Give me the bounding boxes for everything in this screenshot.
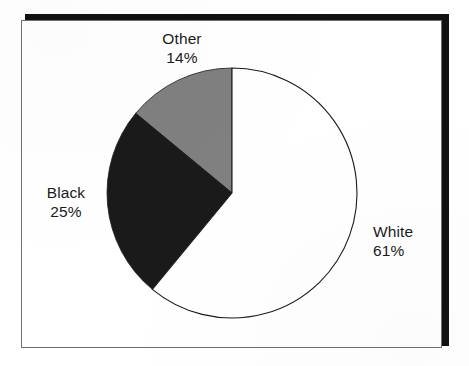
pie-label-black-percent: 25% [31,202,101,221]
pie-label-white-percent: 61% [373,241,453,260]
frame-shadow-right [442,14,449,346]
pie-label-other: Other 14% [147,29,217,67]
pie-chart-figure: Other 14% Black 25% White 61% [0,0,469,366]
pie-label-white-name: White [373,222,453,241]
pie-label-black-name: Black [31,183,101,202]
pie-label-other-name: Other [147,29,217,48]
pie-label-black: Black 25% [31,183,101,221]
pie-label-white: White 61% [373,222,453,260]
pie-label-other-percent: 14% [147,48,217,67]
